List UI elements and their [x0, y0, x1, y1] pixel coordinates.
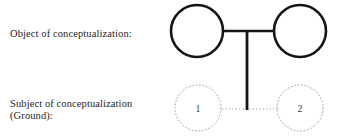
object-node-right-circle — [274, 5, 326, 57]
ground-node-2-label: 2 — [298, 103, 303, 114]
ground-node-1-label: 1 — [196, 103, 201, 114]
conceptualization-diagram-figure: Object of conceptualization: Subject of … — [0, 0, 337, 137]
object-node-left-circle — [171, 5, 223, 57]
diagram-canvas: 1 2 — [0, 0, 337, 137]
